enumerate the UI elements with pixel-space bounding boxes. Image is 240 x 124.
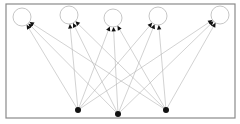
top-node-t2: [60, 6, 78, 24]
top-node-t4: [149, 7, 167, 25]
bottom-node-b1: [75, 107, 81, 113]
top-node-t5: [211, 6, 229, 24]
top-node-t1: [13, 8, 31, 26]
bottom-node-b2: [115, 111, 121, 117]
top-node-t3: [104, 9, 122, 27]
bipartite-graph-diagram: [0, 0, 240, 124]
bottom-node-b3: [163, 107, 169, 113]
